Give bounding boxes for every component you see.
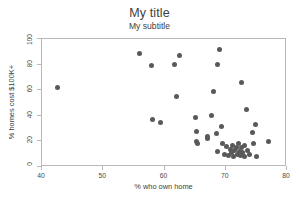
data-point: [244, 107, 249, 112]
data-point: [193, 115, 198, 120]
data-point: [247, 152, 252, 157]
y-tick-label: 80: [26, 60, 34, 67]
data-point: [177, 53, 182, 58]
y-tick-mark: [37, 166, 41, 167]
data-point: [150, 117, 155, 122]
data-point: [195, 141, 200, 146]
data-point: [251, 141, 256, 146]
y-tick-label: 0: [26, 162, 34, 166]
data-point: [215, 62, 220, 67]
x-tick-label: 80: [282, 171, 290, 180]
x-axis-label: % who own home: [41, 182, 286, 191]
data-point: [158, 120, 163, 125]
x-tick-label: 50: [98, 171, 106, 180]
x-tick-mark: [225, 166, 226, 170]
data-point: [242, 143, 247, 148]
data-point: [215, 149, 220, 154]
data-point: [214, 131, 219, 136]
data-point: [137, 51, 142, 56]
plot-area: [41, 38, 286, 166]
chart-title-block: My title My subtitle: [0, 6, 299, 32]
data-points-layer: [42, 39, 285, 165]
y-tick-label: 60: [26, 85, 34, 92]
x-tick-mark: [41, 166, 42, 170]
x-tick-label: 60: [160, 171, 168, 180]
x-tick-mark: [102, 166, 103, 170]
y-tick-label: 40: [26, 111, 34, 118]
data-point: [217, 47, 222, 52]
y-tick-label: 100: [26, 34, 34, 45]
chart-subtitle: My subtitle: [0, 21, 299, 32]
x-tick-mark: [286, 166, 287, 170]
data-point: [239, 80, 244, 85]
scatter-chart-figure: My title My subtitle 020406080100 405060…: [0, 0, 299, 203]
data-point: [205, 136, 210, 141]
data-point: [266, 139, 271, 144]
data-point: [211, 89, 216, 94]
data-point: [253, 122, 258, 127]
x-tick-label: 40: [37, 171, 45, 180]
y-axis-label: % homes cost $100K+: [6, 38, 16, 166]
data-point: [219, 124, 224, 129]
data-point: [149, 63, 154, 68]
x-tick-mark: [164, 166, 165, 170]
x-tick-label: 70: [221, 171, 229, 180]
data-point: [55, 85, 60, 90]
data-point: [172, 62, 177, 67]
data-point: [194, 129, 199, 134]
data-point: [174, 94, 179, 99]
y-tick-label: 20: [26, 136, 34, 143]
data-point: [254, 154, 259, 159]
chart-title: My title: [0, 6, 299, 20]
data-point: [250, 130, 255, 135]
y-axis-label-text: % homes cost $100K+: [7, 65, 16, 139]
data-point: [209, 113, 214, 118]
